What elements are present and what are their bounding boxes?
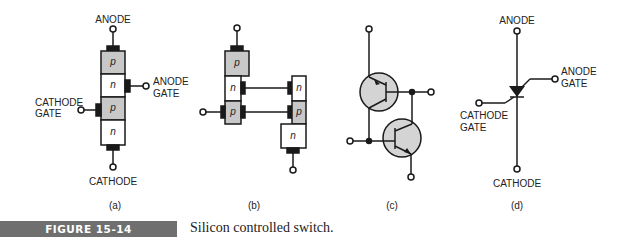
a-anode-label: ANODE <box>95 14 131 25</box>
d-cathode-label: CATHODE <box>493 178 541 189</box>
a-cathode-label: CATHODE <box>89 176 137 187</box>
sublabel-c: (c) <box>386 200 398 211</box>
sublabel-a: (a) <box>109 200 121 211</box>
a-layer-4: n <box>110 126 116 137</box>
d-anode-gate-label-2: GATE <box>561 78 588 89</box>
b-left-layer-3: p <box>229 106 236 117</box>
a-anode-gate-label-1: ANODE <box>153 76 189 87</box>
d-cathode-gate-label-1: CATHODE <box>460 110 508 121</box>
b-right-layer-1: n <box>296 82 302 93</box>
sublabel-d: (d) <box>511 200 523 211</box>
scs-figure: ANODE ANODE GATE CATHODE GATE CATHODE p … <box>0 0 630 237</box>
a-anode-gate-label-2: GATE <box>153 88 180 99</box>
panel-d-scs-symbol <box>476 28 558 172</box>
a-layer-2: n <box>110 79 116 90</box>
b-left-layer-2: n <box>230 82 236 93</box>
b-right-layer-2: p <box>295 106 302 117</box>
b-left-layer-1: p <box>233 57 240 68</box>
d-cathode-gate-label-2: GATE <box>460 122 487 133</box>
figure-caption: Silicon controlled switch. <box>190 220 333 236</box>
a-layer-1: p <box>109 56 116 67</box>
panel-c-transistor-equivalent <box>347 26 434 180</box>
b-right-layer-3: n <box>290 130 296 141</box>
a-layer-3: p <box>109 102 116 113</box>
diode-triangle-icon <box>509 86 525 97</box>
a-cathode-gate-label-1: CATHODE <box>35 97 83 108</box>
figure-number-badge: FIGURE 15-14 <box>0 221 177 237</box>
sublabel-b: (b) <box>248 200 260 211</box>
panel-a-four-layer-structure <box>78 26 149 170</box>
a-cathode-gate-label-2: GATE <box>35 108 62 119</box>
d-anode-label: ANODE <box>499 15 535 26</box>
d-anode-gate-label-1: ANODE <box>561 66 597 77</box>
panel-b-two-transistor-split <box>200 25 306 173</box>
